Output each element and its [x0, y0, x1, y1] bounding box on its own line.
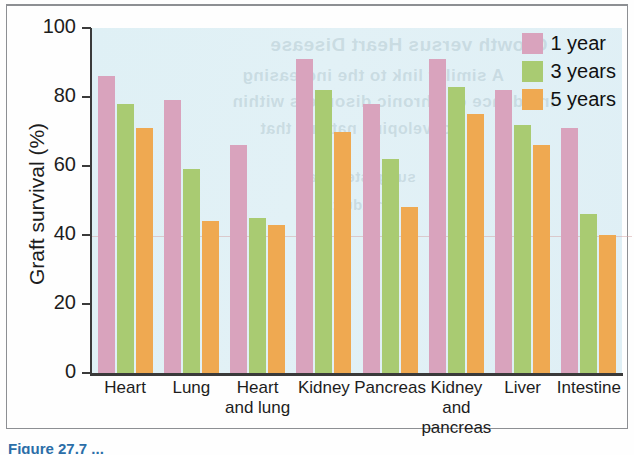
y-axis-line — [90, 28, 92, 375]
figure-caption: Figure 27.7 ... — [8, 440, 104, 454]
legend-swatch-icon — [522, 61, 543, 82]
legend-item-label: 3 years — [550, 60, 616, 83]
x-axis-labels: HeartLungHeartand lungKidneyPancreasKidn… — [92, 378, 624, 450]
bar — [429, 59, 446, 373]
bar-group — [164, 28, 219, 373]
x-axis-label-line: Intestine — [534, 378, 634, 398]
bar — [315, 90, 332, 373]
figure-border-top — [6, 4, 628, 6]
bar — [401, 207, 418, 373]
bar — [580, 214, 597, 373]
x-axis-label-line: and lung — [203, 398, 313, 418]
legend: 1 year 3 years 5 years — [522, 32, 616, 111]
bar — [448, 87, 465, 373]
bar-group — [98, 28, 153, 373]
legend-swatch-icon — [522, 33, 543, 54]
x-axis-label-line: pancreas — [401, 418, 511, 438]
bar-group — [363, 28, 418, 373]
y-axis-tick-label: 100 — [28, 15, 76, 38]
bar — [382, 159, 399, 373]
legend-item-label: 5 years — [550, 88, 616, 111]
bar — [599, 235, 616, 373]
legend-item: 5 years — [522, 88, 616, 111]
bar — [117, 104, 134, 373]
y-axis-tick — [82, 372, 91, 374]
bar — [230, 145, 247, 373]
bar — [249, 218, 266, 373]
bar — [334, 132, 351, 374]
bar — [495, 90, 512, 373]
y-axis-tick — [82, 27, 91, 29]
bar — [514, 125, 531, 373]
x-axis-label-line: and — [401, 398, 511, 418]
bar-group — [296, 28, 351, 373]
bar-group — [230, 28, 285, 373]
y-axis-tick — [82, 234, 91, 236]
bar — [183, 169, 200, 373]
bar — [561, 128, 578, 373]
bar — [296, 59, 313, 373]
legend-item-label: 1 year — [550, 32, 606, 55]
y-axis-title: Graft survival (%) — [25, 54, 49, 354]
bar — [164, 100, 181, 373]
x-axis-line — [90, 373, 623, 376]
bar-group — [429, 28, 484, 373]
x-axis-label: Intestine — [534, 378, 634, 398]
y-axis-tick-label: 0 — [28, 360, 76, 383]
bar — [268, 225, 285, 373]
legend-item: 1 year — [522, 32, 616, 55]
legend-swatch-icon — [522, 89, 543, 110]
bar — [363, 104, 380, 373]
y-axis-tick — [82, 96, 91, 98]
bar — [202, 221, 219, 373]
legend-item: 3 years — [522, 60, 616, 83]
bar — [533, 145, 550, 373]
bar — [467, 114, 484, 373]
figure-container: Growth versus Heart Disease A similar li… — [0, 0, 634, 455]
y-axis-tick — [82, 165, 91, 167]
bar — [136, 128, 153, 373]
y-axis-tick — [82, 303, 91, 305]
bar — [98, 76, 115, 373]
